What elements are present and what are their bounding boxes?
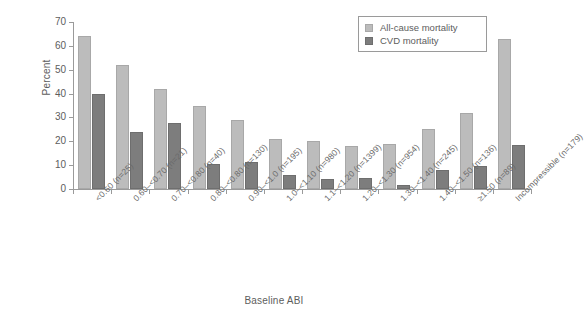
- bar: [78, 36, 91, 189]
- y-tick: 30: [0, 117, 73, 118]
- y-tick: 60: [0, 46, 73, 47]
- y-tick: 20: [0, 141, 73, 142]
- bar: [130, 132, 143, 189]
- y-tick-label: 20: [55, 134, 66, 147]
- y-tick: 70: [0, 22, 73, 23]
- x-axis-title: Baseline ABI: [0, 295, 548, 306]
- y-tick-label: 10: [55, 158, 66, 171]
- legend-label: All-cause mortality: [380, 22, 458, 33]
- y-tick-label: 30: [55, 110, 66, 123]
- legend-swatch-icon: [365, 24, 373, 32]
- x-tick-mark: [73, 190, 74, 194]
- bar-group: [78, 22, 106, 189]
- legend-label: CVD mortality: [380, 35, 439, 46]
- legend-swatch-icon: [365, 37, 373, 45]
- y-tick: 10: [0, 165, 73, 166]
- y-tick: 50: [0, 70, 73, 71]
- bar: [92, 94, 105, 189]
- y-tick-label: 0: [60, 182, 66, 195]
- legend-item: CVD mortality: [365, 34, 480, 47]
- y-tick: 0: [0, 189, 73, 190]
- legend-item: All-cause mortality: [365, 21, 480, 34]
- y-tick-label: 50: [55, 63, 66, 76]
- y-tick-label: 70: [55, 15, 66, 28]
- y-axis-title: Percent: [41, 38, 52, 118]
- chart-legend: All-cause mortalityCVD mortality: [358, 16, 487, 52]
- y-tick-label: 40: [55, 87, 66, 100]
- y-tick: 40: [0, 94, 73, 95]
- y-tick-label: 60: [55, 39, 66, 52]
